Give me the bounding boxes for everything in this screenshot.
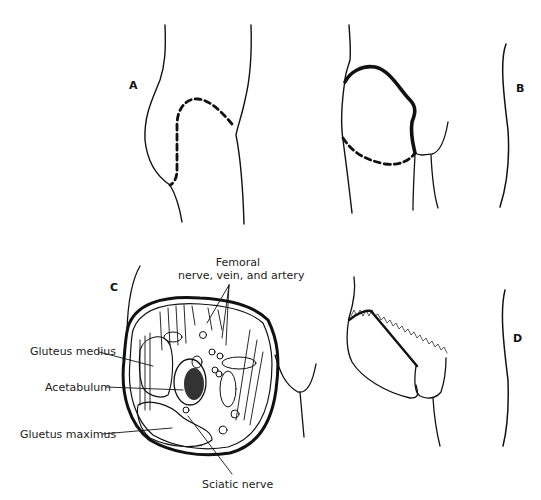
panel-a-drawing	[145, 25, 251, 224]
panel-b-drawing	[342, 25, 509, 213]
gluteus-medius-label: Gluteus medius	[30, 345, 116, 358]
gluteus-maximus-label: Gluetus maximus	[20, 428, 116, 441]
panel-d-drawing	[347, 277, 508, 446]
illustration	[0, 0, 541, 500]
panel-label-a: A	[129, 79, 138, 92]
panel-label-c: C	[110, 281, 118, 294]
figure: A B C D Femoral nerve, vein, and artery …	[0, 0, 541, 500]
panel-label-d: D	[513, 332, 522, 345]
femoral-label: Femoral nerve, vein, and artery	[178, 256, 298, 282]
femoral-label-line2: nerve, vein, and artery	[178, 269, 298, 282]
sciatic-nerve-label: Sciatic nerve	[202, 478, 273, 491]
femoral-label-line1: Femoral	[178, 256, 298, 269]
panel-c-drawing	[99, 266, 316, 474]
acetabulum-label: Acetabulum	[45, 381, 111, 394]
panel-label-b: B	[516, 82, 524, 95]
